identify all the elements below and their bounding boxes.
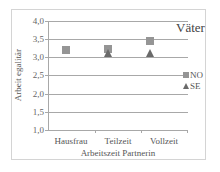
- x-tick-label: Vollzeit: [139, 136, 189, 146]
- gridline-3-0: [48, 57, 188, 58]
- gridline-1-5: [48, 112, 188, 113]
- y-tick-mark: [45, 75, 48, 76]
- x-axis-label: Arbeitszeit Partnerin: [48, 148, 188, 158]
- gridline-1-0: [48, 130, 188, 131]
- gridline-2-0: [48, 94, 188, 95]
- y-axis-label: Arbeit egalitär: [13, 35, 23, 115]
- y-tick-mark: [45, 39, 48, 40]
- data-point-se-teilzeit: [104, 49, 112, 57]
- y-tick-label: 1,5: [25, 107, 44, 117]
- plot-area: [48, 21, 188, 130]
- x-tick-mark: [141, 130, 142, 133]
- y-tick-label: 3,5: [25, 34, 44, 44]
- gridline-2-5: [48, 75, 188, 76]
- legend-label: SE: [190, 81, 201, 91]
- x-tick-mark: [95, 130, 96, 133]
- y-tick-label: 4,0: [25, 16, 44, 26]
- y-tick-mark: [45, 94, 48, 95]
- legend-item-se: SE: [183, 81, 201, 91]
- x-tick-mark: [187, 130, 188, 133]
- gridline-3-5: [48, 39, 188, 40]
- legend-label: NO: [190, 70, 203, 80]
- data-point-no-vollzeit: [146, 37, 154, 45]
- data-point-no-hausfrau: [62, 46, 70, 54]
- y-tick-mark: [45, 21, 48, 22]
- y-axis-line: [48, 21, 49, 130]
- x-tick-label: Hausfrau: [46, 136, 96, 146]
- legend-item-no: NO: [183, 70, 203, 80]
- square-marker-icon: [183, 72, 189, 78]
- triangle-marker-icon: [183, 83, 189, 89]
- y-tick-mark: [45, 112, 48, 113]
- y-tick-mark: [45, 130, 48, 131]
- y-tick-label: 3,0: [25, 52, 44, 62]
- gridline-4-0: [48, 21, 188, 22]
- y-tick-label: 1,0: [25, 125, 44, 135]
- y-tick-label: 2,0: [25, 89, 44, 99]
- x-tick-label: Teilzeit: [93, 136, 143, 146]
- y-tick-label: 2,5: [25, 70, 44, 80]
- y-tick-mark: [45, 57, 48, 58]
- data-point-se-vollzeit: [146, 49, 154, 57]
